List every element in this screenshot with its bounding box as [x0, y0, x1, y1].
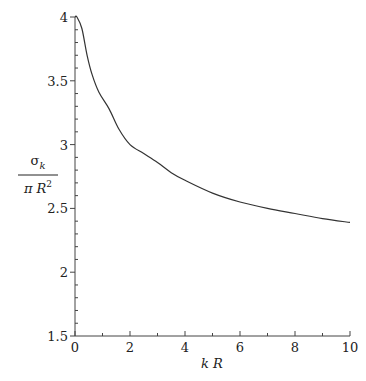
ylabel-numerator: σ [31, 153, 40, 168]
x-tick-label: 8 [291, 340, 299, 355]
x-tick-label: 4 [181, 340, 189, 355]
x-axis-label: k R [201, 356, 223, 371]
x-tick-label: 0 [71, 340, 79, 355]
y-tick-label: 2 [60, 265, 68, 280]
y-tick-label: 3.5 [47, 74, 68, 89]
x-tick-label: 2 [126, 340, 134, 355]
y-tick-label: 2.5 [47, 201, 68, 216]
ticks [70, 17, 350, 336]
y-tick-label: 4 [60, 10, 68, 25]
svg-text:σk: σk [31, 153, 46, 171]
data-curve [75, 16, 350, 222]
ylabel-numerator-sub: k [39, 160, 45, 171]
axes [75, 17, 350, 336]
ylabel-denominator-sup: 2 [46, 179, 52, 189]
x-tick-label: 10 [342, 340, 359, 355]
y-tick-label: 3 [60, 138, 68, 153]
ylabel-denominator: π R [23, 181, 47, 196]
svg-text:π R2: π R2 [23, 179, 52, 196]
y-tick-label: 1.5 [47, 329, 68, 344]
x-tick-label: 6 [236, 340, 244, 355]
y-axis-label: σk π R2 [18, 153, 58, 196]
tick-labels: 02468101.522.533.54 [47, 10, 358, 355]
chart: 02468101.522.533.54 k R σk π R2 [0, 0, 366, 381]
